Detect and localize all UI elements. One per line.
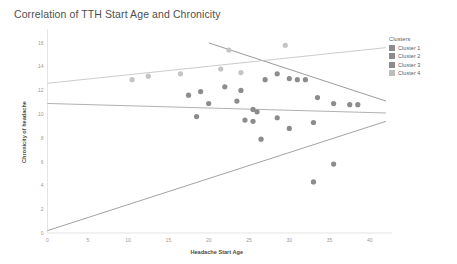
data-point bbox=[263, 77, 268, 82]
data-point bbox=[287, 126, 292, 131]
legend: Clusters Cluster 1Cluster 2Cluster 3Clus… bbox=[389, 36, 453, 78]
data-point bbox=[238, 70, 243, 75]
data-point bbox=[194, 114, 199, 119]
data-point bbox=[206, 101, 211, 106]
legend-title: Clusters bbox=[389, 36, 453, 42]
chart-screenshot: Correlation of TTH Start Age and Chronic… bbox=[0, 0, 457, 264]
x-tick-label: 5 bbox=[86, 237, 89, 243]
data-points bbox=[130, 43, 361, 185]
data-point bbox=[146, 74, 151, 79]
x-tick-label: 35 bbox=[327, 237, 333, 243]
y-tick-label: 12 bbox=[38, 87, 44, 93]
legend-item-label: Cluster 2 bbox=[398, 53, 420, 59]
legend-entries: Cluster 1Cluster 2Cluster 3Cluster 4 bbox=[389, 44, 453, 77]
trendline bbox=[209, 43, 386, 101]
y-tick-label: 10 bbox=[38, 111, 44, 117]
data-point bbox=[198, 89, 203, 94]
y-tick-label: 2 bbox=[41, 206, 44, 212]
trendlines bbox=[48, 43, 387, 231]
data-point bbox=[275, 71, 280, 76]
data-point bbox=[311, 120, 316, 125]
y-tick-label: 14 bbox=[38, 63, 44, 69]
data-point bbox=[331, 161, 336, 166]
data-point bbox=[275, 115, 280, 120]
y-axis-group: 0246810121416 Chronicity of headache bbox=[21, 29, 48, 236]
x-tick-label: 0 bbox=[46, 237, 49, 243]
data-point bbox=[254, 109, 259, 114]
legend-item-label: Cluster 3 bbox=[398, 62, 420, 68]
legend-swatch-icon bbox=[389, 62, 395, 68]
legend-item-label: Cluster 4 bbox=[398, 70, 420, 76]
x-tick-label: 25 bbox=[246, 237, 252, 243]
data-point bbox=[242, 118, 247, 123]
legend-swatch-icon bbox=[389, 70, 395, 76]
data-point bbox=[311, 179, 316, 184]
x-tick-label: 30 bbox=[287, 237, 293, 243]
data-point bbox=[303, 77, 308, 82]
data-point bbox=[283, 43, 288, 48]
data-point bbox=[331, 101, 336, 106]
data-point bbox=[186, 93, 191, 98]
data-point bbox=[226, 47, 231, 52]
y-tick-label: 8 bbox=[41, 135, 44, 141]
trendline bbox=[48, 121, 387, 230]
data-point bbox=[355, 102, 360, 107]
y-tick-label: 0 bbox=[41, 230, 44, 236]
x-tick-label: 20 bbox=[206, 237, 212, 243]
y-tick-label: 6 bbox=[41, 159, 44, 165]
data-point bbox=[238, 88, 243, 93]
legend-item[interactable]: Cluster 2 bbox=[389, 53, 453, 61]
data-point bbox=[258, 137, 263, 142]
trendline bbox=[48, 48, 387, 84]
data-point bbox=[295, 77, 300, 82]
legend-item[interactable]: Cluster 4 bbox=[389, 69, 453, 77]
data-point bbox=[315, 95, 320, 100]
data-point bbox=[347, 102, 352, 107]
data-point bbox=[287, 76, 292, 81]
y-axis-title: Chronicity of headache bbox=[21, 101, 27, 163]
legend-item-label: Cluster 1 bbox=[398, 45, 420, 51]
data-point bbox=[250, 119, 255, 124]
data-point bbox=[130, 77, 135, 82]
data-point bbox=[222, 84, 227, 89]
y-tick-label: 4 bbox=[41, 182, 44, 188]
y-axis-ticks: 0246810121416 bbox=[38, 40, 44, 236]
legend-swatch-icon bbox=[389, 53, 395, 59]
x-tick-label: 15 bbox=[166, 237, 172, 243]
x-axis-title: Headache Start Age bbox=[190, 249, 243, 255]
legend-swatch-icon bbox=[389, 45, 395, 51]
legend-item[interactable]: Cluster 3 bbox=[389, 61, 453, 69]
x-tick-label: 10 bbox=[125, 237, 131, 243]
y-tick-label: 16 bbox=[38, 40, 44, 46]
x-tick-label: 40 bbox=[367, 237, 373, 243]
data-point bbox=[178, 71, 183, 76]
x-axis-group: 0510152025303540 Headache Start Age bbox=[46, 233, 392, 255]
legend-item[interactable]: Cluster 1 bbox=[389, 44, 453, 52]
x-axis-ticks: 0510152025303540 bbox=[46, 237, 373, 243]
data-point bbox=[234, 99, 239, 104]
data-point bbox=[218, 66, 223, 71]
